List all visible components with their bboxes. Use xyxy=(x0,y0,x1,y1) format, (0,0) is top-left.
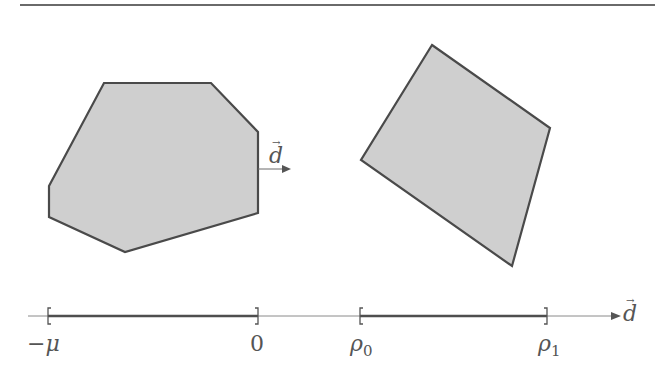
vector-arrow-icon: → xyxy=(272,138,280,148)
left-polygon xyxy=(49,83,258,252)
label-neg-mu: −μ xyxy=(27,333,60,355)
direction-arrow-icon xyxy=(282,165,291,173)
right-quadrilateral xyxy=(361,45,550,266)
axis-vector-arrow-icon: → xyxy=(626,296,634,306)
projection-diagram xyxy=(0,0,655,387)
label-rho1: ρ1 xyxy=(538,333,560,355)
label-zero: 0 xyxy=(250,333,264,355)
axis-direction-label: → d xyxy=(623,303,637,325)
rho1-subscript: 1 xyxy=(551,342,561,360)
rho0-symbol: ρ xyxy=(350,331,363,356)
label-rho0: ρ0 xyxy=(350,333,372,355)
axis-arrow-icon xyxy=(611,312,621,320)
direction-vector-label: → d xyxy=(269,145,283,167)
rho1-symbol: ρ xyxy=(538,331,551,356)
rho0-subscript: 0 xyxy=(363,342,373,360)
